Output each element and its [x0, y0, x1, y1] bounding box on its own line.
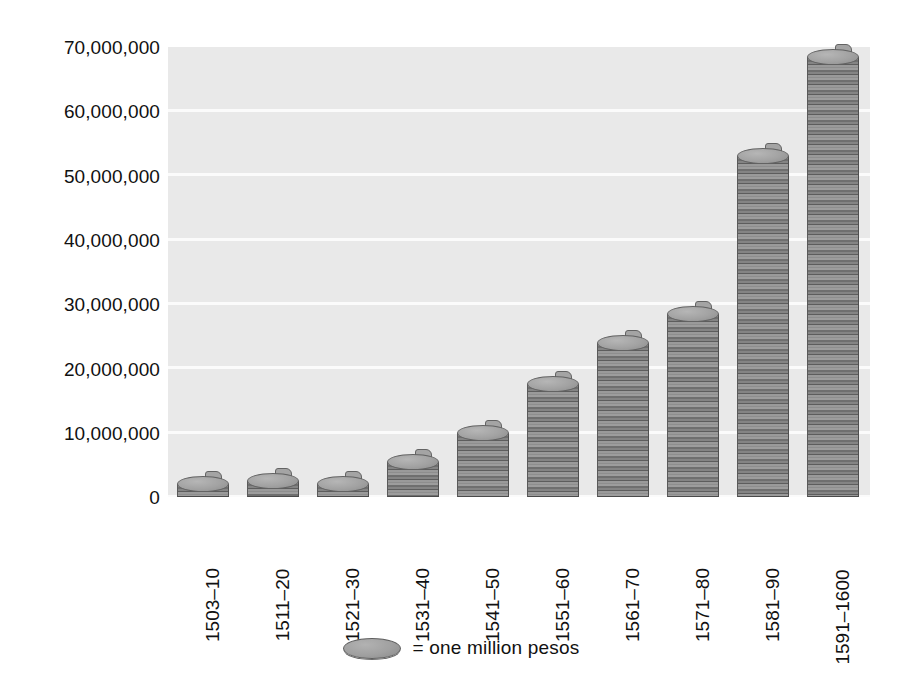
coin-top-face [457, 425, 509, 441]
coin-top-face [247, 473, 299, 489]
x-axis-tick-label: 1551–60 [527, 505, 579, 620]
y-axis-tick-label: 60,000,000 [4, 102, 160, 121]
coin-stack-bar-chart: 70,000,000 60,000,000 50,000,000 40,000,… [0, 0, 922, 685]
coin-stack [667, 314, 719, 497]
coin-top-face [387, 454, 439, 470]
x-axis-baseline [168, 497, 870, 499]
coin-top-face [737, 148, 789, 164]
coin-stack [597, 343, 649, 497]
coin-top-face [597, 335, 649, 351]
coin-top-face [177, 476, 229, 492]
y-axis-tick-label: 30,000,000 [4, 295, 160, 314]
coin-stack [387, 462, 439, 497]
x-axis-tick-label: 1541–50 [457, 505, 509, 620]
x-axis-tick-label: 1511–20 [247, 505, 299, 620]
x-axis-tick-label: 1571–80 [667, 505, 719, 620]
x-axis-tick-label: 1503–10 [177, 505, 229, 620]
y-axis-tick-label: 10,000,000 [4, 424, 160, 443]
x-axis-tick-label: 1561–70 [597, 505, 649, 620]
coin-top-face [807, 49, 859, 65]
coin-stack [807, 57, 859, 497]
coin-icon [343, 638, 401, 659]
y-axis-tick-label: 0 [4, 488, 160, 507]
bars-layer [168, 47, 870, 497]
chart-legend: = one million pesos [0, 628, 922, 668]
x-axis-tick-label: 1581–90 [737, 505, 789, 620]
coin-top-face [667, 306, 719, 322]
coin-stack [527, 384, 579, 497]
coin-stack [457, 433, 509, 497]
x-axis: 1503–101511–201521–301531–401541–501551–… [168, 505, 870, 625]
x-axis-tick-label: 1591–1600 [807, 505, 859, 620]
y-axis-tick-label: 70,000,000 [4, 38, 160, 57]
coin-stack [737, 156, 789, 497]
y-axis-tick-label: 40,000,000 [4, 231, 160, 250]
y-axis: 70,000,000 60,000,000 50,000,000 40,000,… [0, 0, 160, 560]
x-axis-tick-label: 1531–40 [387, 505, 439, 620]
x-axis-tick-label: 1521–30 [317, 505, 369, 620]
y-axis-tick-label: 20,000,000 [4, 360, 160, 379]
coin-stack [247, 481, 299, 497]
coin-stack [317, 484, 369, 497]
coin-top-face [317, 476, 369, 492]
legend-label: = one million pesos [413, 637, 580, 659]
coin-top-face [527, 376, 579, 392]
coin-stack [177, 484, 229, 497]
y-axis-tick-label: 50,000,000 [4, 167, 160, 186]
